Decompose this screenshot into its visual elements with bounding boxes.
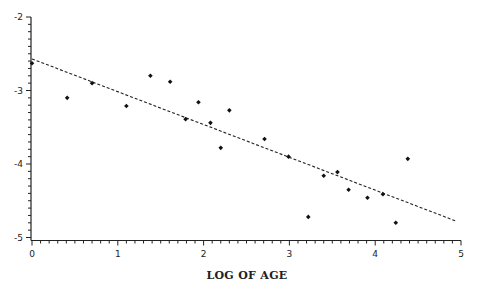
data-point-marker bbox=[321, 173, 326, 178]
x-axis-title: LOG OF AGE bbox=[206, 269, 287, 282]
x-tick-label: 3 bbox=[287, 249, 293, 259]
data-point-marker bbox=[218, 146, 223, 151]
data-point-marker bbox=[381, 192, 386, 197]
data-point-marker bbox=[168, 79, 173, 84]
data-point-marker bbox=[286, 154, 291, 159]
data-point-marker bbox=[30, 61, 35, 66]
regression-line bbox=[32, 59, 457, 221]
y-tick-label: -2 bbox=[14, 12, 23, 22]
x-tick-label: 4 bbox=[372, 249, 378, 259]
data-point-marker bbox=[208, 121, 213, 126]
scatter-chart: 012345-2-3-4-5 LOG OF AGE bbox=[0, 0, 477, 292]
data-point-marker bbox=[406, 157, 411, 162]
data-point-marker bbox=[148, 74, 153, 79]
data-point-marker bbox=[346, 187, 351, 192]
data-point-marker bbox=[335, 170, 340, 175]
y-tick-label: -5 bbox=[14, 233, 23, 243]
x-tick-label: 0 bbox=[29, 249, 35, 259]
x-tick-label: 2 bbox=[201, 249, 207, 259]
data-point-marker bbox=[196, 100, 201, 105]
data-points bbox=[30, 61, 410, 225]
x-tick-label: 1 bbox=[115, 249, 121, 259]
data-point-marker bbox=[65, 96, 70, 101]
data-point-marker bbox=[306, 215, 311, 220]
data-point-marker bbox=[124, 104, 129, 109]
data-point-marker bbox=[393, 221, 398, 226]
data-point-marker bbox=[365, 196, 370, 201]
fitted-line bbox=[32, 59, 457, 221]
data-point-marker bbox=[227, 108, 232, 113]
data-point-marker bbox=[262, 137, 267, 142]
x-tick-label: 5 bbox=[458, 249, 464, 259]
y-tick-label: -3 bbox=[14, 86, 23, 96]
y-tick-label: -4 bbox=[14, 159, 23, 169]
